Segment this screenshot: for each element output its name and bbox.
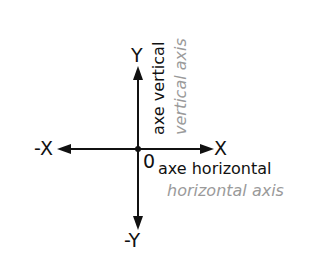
horizontal-axis-label-fr: axe horizontal	[158, 161, 272, 177]
arrow-right-icon	[200, 144, 214, 154]
horizontal-axis-label-en: horizontal axis	[167, 183, 284, 199]
vertical-axis-label-en: vertical axis	[173, 38, 189, 135]
y-negative-label: -Y	[124, 231, 140, 250]
x-negative-label: -X	[34, 139, 53, 158]
origin-label: 0	[143, 152, 155, 171]
origin-dot	[135, 146, 141, 152]
y-positive-label: Y	[131, 46, 143, 65]
vertical-axis-label-fr: axe vertical	[151, 42, 167, 135]
arrow-up-icon	[133, 66, 143, 80]
arrow-down-icon	[133, 216, 143, 230]
arrow-left-icon	[57, 144, 71, 154]
x-positive-label: X	[214, 139, 227, 158]
